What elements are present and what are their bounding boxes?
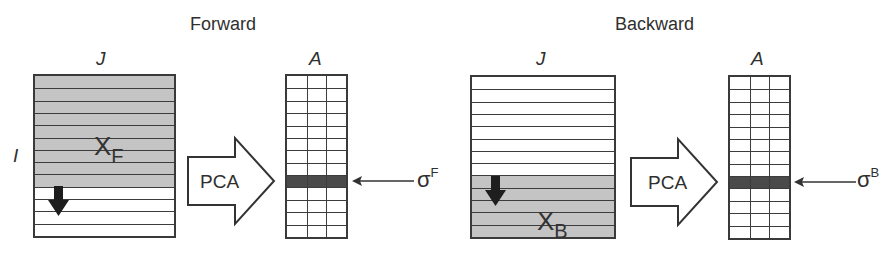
- matrix-row: [730, 102, 789, 115]
- forward-j-label: J: [96, 48, 106, 70]
- backward-down-arrow-icon: [483, 176, 509, 208]
- forward-score-matrix: [285, 74, 348, 239]
- highlighted-row: [730, 176, 789, 189]
- matrix-column-divider: [326, 76, 327, 237]
- matrix-row: [472, 151, 614, 164]
- forward-a-label: A: [309, 48, 322, 70]
- matrix-row: [472, 114, 614, 127]
- matrix-column-divider: [307, 76, 308, 237]
- sigma-superscript: F: [431, 165, 439, 180]
- matrix-column-divider: [750, 77, 751, 238]
- backward-pca-label: PCA: [648, 172, 687, 194]
- matrix-row: [35, 76, 174, 89]
- matrix-row: [730, 127, 789, 140]
- matrix-row: [287, 126, 346, 139]
- matrix-row: [287, 200, 346, 213]
- forward-down-arrow-icon: [46, 186, 72, 218]
- backward-j-label: J: [536, 48, 546, 70]
- matrix-row: [730, 89, 789, 102]
- matrix-row: [730, 151, 789, 164]
- matrix-row: [730, 188, 789, 201]
- matrix-row: [287, 76, 346, 89]
- matrix-row: [287, 101, 346, 114]
- backward-matrix-label: XB: [537, 206, 568, 243]
- x-subscript: F: [111, 145, 123, 167]
- matrix-row: [730, 226, 789, 239]
- forward-i-label: I: [13, 145, 18, 167]
- matrix-row: [730, 201, 789, 214]
- sigma-superscript: B: [871, 165, 880, 180]
- sigma-symbol: σ: [417, 167, 431, 192]
- matrix-row: [472, 139, 614, 152]
- sigma-symbol: σ: [857, 167, 871, 192]
- forward-pca-label: PCA: [200, 171, 239, 193]
- highlighted-row: [287, 175, 346, 188]
- matrix-row: [287, 225, 346, 238]
- x-symbol: X: [537, 206, 554, 236]
- backward-pointer-arrow-icon: [794, 175, 856, 189]
- matrix-row: [730, 114, 789, 127]
- matrix-row: [287, 88, 346, 101]
- matrix-row: [730, 213, 789, 226]
- backward-score-matrix: [728, 75, 791, 240]
- matrix-row: [35, 113, 174, 126]
- matrix-row: [287, 113, 346, 126]
- matrix-row: [730, 139, 789, 152]
- matrix-row: [287, 212, 346, 225]
- matrix-row: [472, 89, 614, 102]
- matrix-row: [287, 187, 346, 200]
- matrix-row: [35, 224, 174, 237]
- matrix-row: [287, 163, 346, 176]
- x-subscript: B: [554, 220, 567, 242]
- backward-sigma-label: σB: [857, 165, 879, 193]
- forward-pointer-arrow-icon: [352, 174, 414, 188]
- matrix-row: [730, 164, 789, 177]
- matrix-column-divider: [769, 77, 770, 238]
- x-symbol: X: [94, 131, 111, 161]
- matrix-row: [472, 126, 614, 139]
- forward-sigma-label: σF: [417, 165, 439, 193]
- matrix-row: [35, 88, 174, 101]
- matrix-row: [287, 138, 346, 151]
- forward-title: Forward: [190, 14, 256, 35]
- matrix-row: [287, 150, 346, 163]
- matrix-row: [472, 77, 614, 90]
- backward-title: Backward: [615, 14, 694, 35]
- matrix-row: [472, 163, 614, 176]
- matrix-row: [730, 77, 789, 90]
- matrix-row: [472, 102, 614, 115]
- matrix-row: [35, 101, 174, 114]
- backward-a-label: A: [751, 48, 764, 70]
- forward-matrix-label: XF: [94, 131, 124, 168]
